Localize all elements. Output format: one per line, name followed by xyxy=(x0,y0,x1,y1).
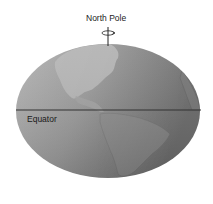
earth-diagram: North Pole Equator xyxy=(0,0,213,204)
globe-illustration xyxy=(0,0,213,204)
equator-label: Equator xyxy=(27,114,57,124)
north-pole-label: North Pole xyxy=(86,13,126,23)
continents xyxy=(16,44,200,178)
